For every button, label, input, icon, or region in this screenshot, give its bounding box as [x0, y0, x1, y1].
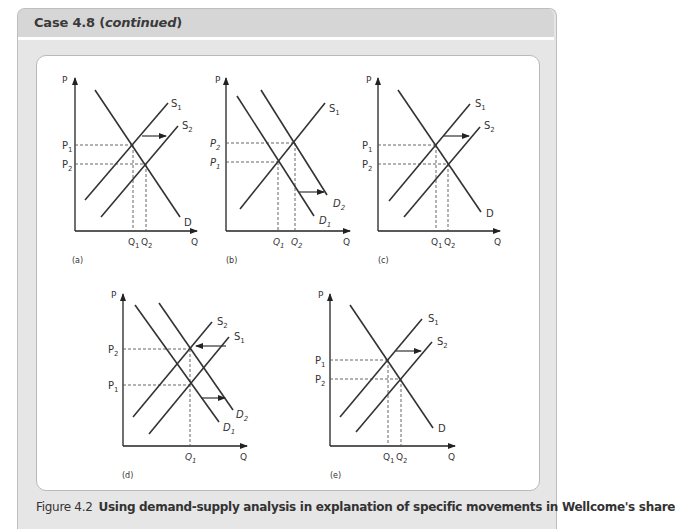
svg-text:D: D	[184, 217, 192, 228]
svg-text:D2: D2	[236, 409, 249, 423]
axis-label-p: P	[62, 75, 68, 85]
svg-text:P1: P1	[210, 157, 221, 171]
svg-text:P: P	[111, 290, 117, 300]
svg-text:S1: S1	[475, 98, 486, 112]
svg-text:Q2: Q2	[396, 452, 408, 465]
svg-text:Q: Q	[343, 237, 350, 247]
svg-text:S2: S2	[217, 316, 228, 330]
svg-text:P1: P1	[315, 355, 326, 369]
supply-curve-s2	[101, 126, 178, 217]
svg-text:Q: Q	[448, 452, 455, 462]
figure-number: Figure 4.2	[36, 500, 93, 514]
supply-curve-s1	[240, 103, 325, 209]
svg-text:D: D	[486, 208, 494, 219]
svg-text:Q1: Q1	[185, 452, 197, 465]
svg-text:Q: Q	[240, 452, 247, 462]
svg-text:S2: S2	[182, 120, 193, 134]
svg-text:S1: S1	[329, 103, 340, 117]
svg-text:Q2: Q2	[291, 237, 303, 250]
svg-text:P2: P2	[108, 344, 119, 358]
panel-label-c: (c)	[378, 256, 389, 265]
panel-label-b: (b)	[226, 256, 237, 265]
graph-b: P Q S1 D2 D1 P2 P1 Q1 Q2 (b)	[210, 75, 350, 265]
svg-text:D1: D1	[223, 422, 235, 436]
svg-text:P: P	[366, 75, 372, 85]
svg-text:S1: S1	[428, 313, 439, 327]
svg-text:D: D	[438, 423, 446, 434]
svg-text:P1: P1	[362, 140, 373, 154]
figure-caption: Figure 4.2Using demand-supply analysis i…	[36, 500, 675, 514]
graph-a: P Q S1 S2 D P1 P2 Q1 Q2 (a)	[62, 75, 198, 265]
panel-label-a: (a)	[72, 256, 83, 265]
svg-text:P1: P1	[62, 140, 73, 154]
demand-curve-d	[95, 90, 180, 217]
svg-text:Q: Q	[494, 237, 501, 247]
graph-d: P Q S2 S1 D2 D1 P2 P1 Q1 (d)	[108, 290, 249, 480]
svg-text:P1: P1	[108, 380, 119, 394]
svg-text:Q2: Q2	[444, 237, 456, 250]
graph-e: P Q S1 S2 D P1 P2 Q1 Q2 (e)	[315, 290, 455, 480]
svg-text:S1: S1	[171, 98, 182, 112]
svg-text:S1: S1	[234, 331, 245, 345]
svg-text:P2: P2	[315, 374, 326, 388]
panel-label-e: (e)	[330, 471, 341, 480]
svg-text:S2: S2	[437, 336, 448, 350]
svg-text:P2: P2	[62, 159, 73, 173]
svg-text:D1: D1	[319, 215, 331, 229]
svg-text:Q1: Q1	[128, 237, 140, 250]
svg-text:D2: D2	[333, 198, 346, 212]
axis-label-q: Q	[191, 237, 198, 247]
svg-text:P2: P2	[362, 159, 373, 173]
svg-text:P2: P2	[210, 138, 221, 152]
svg-text:Q1: Q1	[431, 237, 443, 250]
panel-label-d: (d)	[122, 471, 133, 480]
graph-c: P Q S1 S2 D P1 P2 Q1 Q2 (c)	[362, 75, 501, 265]
svg-text:Q2: Q2	[141, 237, 153, 250]
svg-text:Q1: Q1	[383, 452, 395, 465]
figure-caption-text: Using demand-supply analysis in explanat…	[99, 500, 675, 514]
svg-text:S2: S2	[484, 120, 495, 134]
svg-text:Q1: Q1	[273, 237, 285, 250]
svg-text:P: P	[215, 75, 221, 85]
svg-text:P: P	[318, 290, 324, 300]
